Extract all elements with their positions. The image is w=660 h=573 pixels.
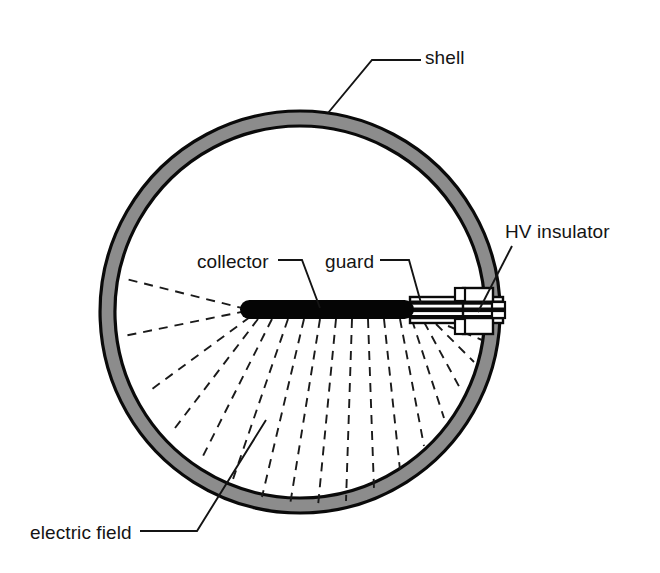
- collector-bar: [240, 300, 414, 319]
- collector-label: collector: [197, 251, 269, 272]
- electric-field-line: [232, 319, 288, 482]
- feedthrough-stub-core: [492, 308, 505, 313]
- electric-field-line: [122, 278, 246, 309]
- insulator-collar-top: [455, 288, 465, 301]
- insulator-collar-bottom: [455, 319, 465, 334]
- guard-label: guard: [325, 251, 374, 272]
- hv-insulator-label: HV insulator: [505, 221, 610, 242]
- apparatus-cross-section-diagram: shellHV insulatorcollectorguardelectric …: [0, 0, 660, 573]
- electric-field-line: [318, 319, 336, 506]
- electric-field-line: [384, 319, 400, 470]
- electric-field-line: [346, 319, 352, 501]
- electric-field-line: [124, 311, 246, 336]
- electric-field-line: [262, 319, 304, 497]
- electric-field-line: [290, 319, 320, 505]
- electric-field-line: [368, 319, 374, 489]
- diagram-canvas: shellHV insulatorcollectorguardelectric …: [0, 0, 660, 573]
- hv-insulator-upper-rule: [463, 301, 493, 305]
- electric-field-line: [400, 319, 424, 446]
- collector-group: [240, 300, 414, 319]
- shell-label: shell: [425, 47, 465, 68]
- electric-field-line: [175, 319, 258, 428]
- shell-leader-line: [328, 60, 421, 113]
- electric-field-line: [202, 319, 272, 458]
- hv-insulator-lower-rule: [463, 315, 493, 319]
- guard-assembly-group: [410, 288, 505, 334]
- electric-field-label: electric field: [30, 522, 132, 543]
